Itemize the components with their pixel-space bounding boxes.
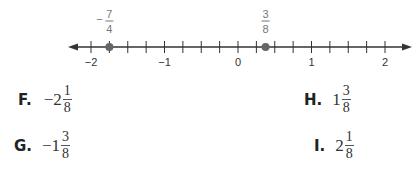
- choice-letter: H.: [304, 91, 322, 109]
- tick-label: 0: [235, 56, 241, 68]
- choice-letter: I.: [314, 137, 325, 155]
- tick-label: 1: [308, 56, 314, 68]
- choice-value: 1 38: [332, 84, 351, 115]
- choice-letter: F.: [18, 91, 32, 109]
- point-label-numerator: 7: [106, 8, 112, 20]
- choice-letter: G.: [14, 137, 32, 155]
- point-marker: [105, 43, 113, 51]
- choice-value: 2 18: [335, 130, 354, 161]
- point-label-numerator: 3: [263, 8, 269, 20]
- point-label-sign: −: [96, 13, 102, 25]
- tick-label: −1: [158, 56, 171, 68]
- choice-value: −1 38: [42, 130, 70, 161]
- tick-label: −2: [85, 56, 98, 68]
- arrow-right-icon: [402, 44, 412, 51]
- fraction: 18: [63, 84, 72, 115]
- tick-label: 2: [382, 56, 388, 68]
- point-label-denominator: 4: [106, 23, 112, 35]
- choice-i[interactable]: I. 2 18: [314, 130, 354, 161]
- choice-f[interactable]: F. −2 18: [18, 84, 72, 115]
- point-label-denominator: 8: [263, 23, 269, 35]
- point-marker: [262, 43, 270, 51]
- fraction: 38: [342, 84, 351, 115]
- choice-value: −2 18: [44, 84, 72, 115]
- fraction: 18: [345, 130, 354, 161]
- choice-g[interactable]: G. −1 38: [14, 130, 70, 161]
- number-line: −2−1012−7438: [0, 0, 418, 80]
- fraction: 38: [61, 130, 70, 161]
- choice-h[interactable]: H. 1 38: [304, 84, 351, 115]
- arrow-left-icon: [68, 44, 78, 51]
